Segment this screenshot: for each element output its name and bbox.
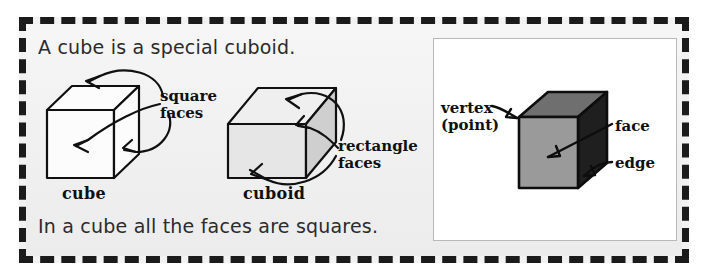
rectangle-faces-label: rectanglefaces: [338, 138, 418, 172]
edge-label: edge: [615, 155, 655, 172]
cube-shape-label: cube: [62, 185, 106, 202]
vertex-label-line2: (point): [441, 116, 499, 134]
square-faces-line2: faces: [160, 104, 203, 122]
vertex-label: vertex(point): [441, 100, 499, 134]
vertex-label-line1: vertex: [441, 99, 493, 117]
rectangle-faces-line1: rectangle: [338, 137, 418, 155]
diagram-page: A cube is a special cuboid. In a cube al…: [0, 0, 707, 276]
rectangle-faces-line2: faces: [338, 154, 381, 172]
right-inset-panel: [433, 38, 677, 241]
footer-text: In a cube all the faces are squares.: [38, 215, 378, 237]
headline-text: A cube is a special cuboid.: [38, 36, 296, 58]
cuboid-shape-label: cuboid: [243, 185, 305, 202]
square-faces-label: squarefaces: [160, 88, 217, 122]
face-label: face: [615, 118, 650, 135]
square-faces-line1: square: [160, 87, 217, 105]
